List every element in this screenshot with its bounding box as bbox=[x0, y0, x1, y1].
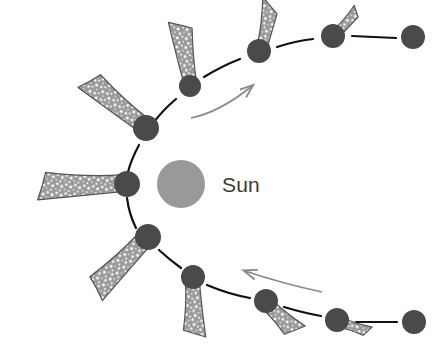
comet-orbit-diagram: Sun bbox=[0, 0, 446, 354]
comet-position-11 bbox=[402, 310, 426, 334]
sun-disk bbox=[157, 160, 205, 208]
comet-nucleus bbox=[135, 224, 161, 250]
comet-nucleus bbox=[247, 39, 271, 63]
figure-canvas: Sun bbox=[0, 0, 446, 354]
comet-nucleus bbox=[179, 75, 201, 97]
comet-nucleus bbox=[133, 115, 159, 141]
comet-nucleus bbox=[401, 25, 425, 49]
comet-nucleus bbox=[325, 308, 349, 332]
comet-position-1 bbox=[401, 25, 425, 49]
sun-label: Sun bbox=[222, 173, 260, 196]
comet-nucleus bbox=[114, 171, 140, 197]
comet-nucleus bbox=[181, 265, 205, 289]
comet-nucleus bbox=[402, 310, 426, 334]
comet-nucleus bbox=[321, 24, 345, 48]
comet-nucleus bbox=[254, 289, 278, 313]
